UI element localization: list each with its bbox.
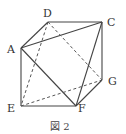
solid-edges bbox=[21, 22, 102, 106]
label-C: C bbox=[107, 16, 115, 29]
edge-AC bbox=[21, 22, 102, 48]
edge-EG bbox=[21, 80, 102, 106]
label-G: G bbox=[108, 75, 117, 88]
geometry-figure: D C A G E F 図 2 bbox=[0, 0, 126, 134]
label-F: F bbox=[78, 102, 86, 115]
label-D: D bbox=[43, 7, 52, 20]
label-E: E bbox=[7, 102, 15, 115]
figure-caption: 図 2 bbox=[50, 121, 70, 132]
label-A: A bbox=[6, 43, 16, 56]
vertex-labels: D C A G E F bbox=[6, 7, 117, 115]
